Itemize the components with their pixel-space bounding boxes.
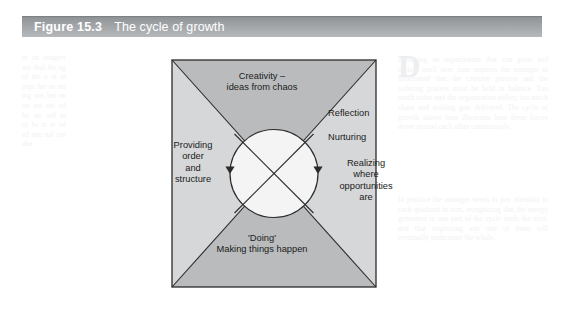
figure-page: er on anagers wo deal the ng of the e at… bbox=[0, 0, 566, 317]
showthrough-left-column: er on anagers wo deal the ng of the e at… bbox=[22, 54, 66, 150]
figure-number: Figure 15.3 bbox=[34, 20, 102, 34]
quadrant-label-left: Providing order and structure bbox=[162, 140, 224, 186]
showthrough-bottom-column: In practice the manager needs to pay att… bbox=[398, 196, 548, 244]
quadrant-label-reflection: Reflection bbox=[328, 108, 412, 119]
figure-caption-bar: Figure 15.3 The cycle of growth bbox=[22, 16, 542, 37]
quadrant-label-bottom: 'Doing' Making things happen bbox=[182, 233, 342, 256]
quadrant-label-realizing: Realizing where opportunities are bbox=[320, 158, 412, 204]
figure-diagram: Creativity – ideas from chaos Providing … bbox=[150, 50, 412, 302]
showthrough-right-column: eveloping an organization that can grow … bbox=[398, 56, 548, 133]
figure-title: The cycle of growth bbox=[114, 20, 224, 34]
quadrant-label-nurturing: Nurturing bbox=[328, 132, 412, 143]
quadrant-label-top: Creativity – ideas from chaos bbox=[192, 71, 332, 94]
